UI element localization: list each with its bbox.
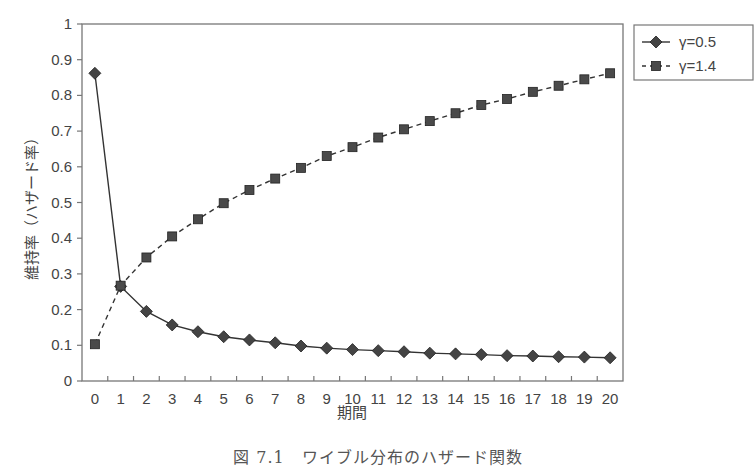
diamond-marker (89, 67, 101, 79)
diamond-marker (269, 337, 281, 349)
x-tick-label: 13 (421, 390, 438, 407)
x-tick-label: 7 (271, 390, 279, 407)
x-tick-label: 12 (396, 390, 413, 407)
x-tick-label: 1 (116, 390, 124, 407)
diamond-marker (553, 351, 565, 363)
square-marker (652, 62, 661, 71)
x-tick-label: 20 (602, 390, 619, 407)
y-tick-label: 0.9 (51, 51, 72, 68)
diamond-marker (424, 347, 436, 359)
x-tick-label: 14 (447, 390, 464, 407)
diamond-marker (398, 346, 410, 358)
square-marker (425, 117, 434, 126)
square-marker (348, 143, 357, 152)
diamond-marker (295, 340, 307, 352)
y-tick-label: 0.4 (51, 229, 72, 246)
x-tick-label: 18 (550, 390, 567, 407)
y-tick-label: 0 (64, 372, 72, 389)
y-tick-label: 1 (64, 15, 72, 32)
series-layer (89, 67, 616, 364)
diamond-marker (475, 349, 487, 361)
x-tick-label: 11 (370, 390, 386, 407)
x-tick-label: 0 (91, 390, 99, 407)
legend: γ=0.5γ=1.4 (634, 25, 753, 80)
square-marker (90, 340, 99, 349)
plot-frame (82, 24, 623, 381)
x-tick-label: 17 (524, 390, 541, 407)
square-marker (374, 133, 383, 142)
figure-caption: 図 7.1 ワイブル分布のハザード関数 (0, 444, 756, 467)
x-tick-label: 2 (142, 390, 150, 407)
square-marker (477, 101, 486, 110)
square-marker (193, 215, 202, 224)
y-tick-label: 0.5 (51, 194, 72, 211)
x-tick-label: 9 (323, 390, 331, 407)
diamond-marker (527, 350, 539, 362)
square-marker (168, 232, 177, 241)
square-marker (219, 199, 228, 208)
square-marker (271, 174, 280, 183)
square-marker (400, 125, 409, 134)
y-tick-label: 0.1 (51, 336, 72, 353)
diamond-marker (604, 352, 616, 364)
x-tick-label: 15 (473, 390, 490, 407)
square-marker (296, 163, 305, 172)
plot-area-border (82, 24, 623, 381)
legend-label: γ=0.5 (679, 33, 716, 50)
y-tick-label: 0.7 (51, 122, 72, 139)
series-line (95, 73, 610, 358)
y-tick-label: 0.3 (51, 265, 72, 282)
y-axis: 00.10.20.30.40.50.60.70.80.91 (51, 15, 82, 389)
y-tick-label: 0.8 (51, 86, 72, 103)
square-marker (580, 75, 589, 84)
x-tick-label: 4 (194, 390, 202, 407)
square-marker (245, 186, 254, 195)
diamond-marker (243, 334, 255, 346)
diamond-marker (450, 348, 462, 360)
diamond-marker (501, 350, 513, 362)
series-gamma-0-5 (89, 67, 616, 364)
legend-label: γ=1.4 (679, 57, 716, 74)
square-marker (554, 81, 563, 90)
square-marker (322, 152, 331, 161)
diamond-marker (192, 326, 204, 338)
hazard-chart: 00.10.20.30.40.50.60.70.80.91 0123456789… (0, 0, 756, 467)
square-marker (528, 87, 537, 96)
y-tick-label: 0.6 (51, 158, 72, 175)
x-tick-label: 8 (297, 390, 305, 407)
square-marker (503, 94, 512, 103)
square-marker (451, 109, 460, 118)
series-line (95, 73, 610, 344)
x-tick-label: 3 (168, 390, 176, 407)
x-tick-label: 16 (499, 390, 516, 407)
diamond-marker (347, 344, 359, 356)
diamond-marker (166, 319, 178, 331)
series-gamma-1-4 (90, 69, 614, 349)
y-axis-title: 維持率（ハザード率） (23, 130, 41, 280)
y-tick-label: 0.2 (51, 301, 72, 318)
x-tick-label: 19 (576, 390, 593, 407)
square-marker (142, 253, 151, 262)
diamond-marker (372, 345, 384, 357)
square-marker (116, 281, 125, 290)
x-tick-label: 6 (245, 390, 253, 407)
diamond-marker (218, 331, 230, 343)
diamond-marker (321, 342, 333, 354)
square-marker (606, 69, 615, 78)
diamond-marker (578, 351, 590, 363)
x-axis-title: 期間 (337, 404, 367, 422)
x-tick-label: 5 (220, 390, 228, 407)
